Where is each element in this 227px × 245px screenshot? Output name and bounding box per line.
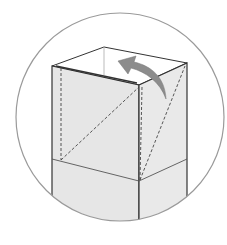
diagram-canvas [0, 0, 227, 245]
origami-diagram: Origami box folding step [0, 0, 227, 245]
box-illustration [52, 47, 187, 245]
